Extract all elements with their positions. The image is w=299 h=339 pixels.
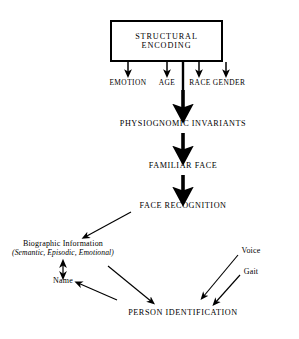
node-voice: Voice <box>241 247 260 256</box>
node-person-identification-label: PERSON IDENTIFICATION <box>128 308 238 317</box>
node-race: RACE <box>189 79 211 87</box>
node-gait-label: Gait <box>244 267 259 276</box>
node-biographic-qualifiers-label: (Semantic, Episodic, Emotional) <box>12 249 114 257</box>
node-age: AGE <box>159 79 176 87</box>
node-name-label: Name <box>53 276 73 285</box>
structural-encoding-box: STRUCTURAL ENCODING <box>110 20 223 62</box>
node-face-recognition-label: FACE RECOGNITION <box>139 201 226 210</box>
node-gender: GENDER <box>213 79 246 87</box>
node-person-identification: PERSON IDENTIFICATION <box>128 308 238 317</box>
node-gender-label: GENDER <box>213 78 246 87</box>
node-age-label: AGE <box>159 78 176 87</box>
node-name: Name <box>53 277 73 286</box>
node-race-label: RACE <box>189 78 211 87</box>
diagram-canvas: STRUCTURAL ENCODING EMOTION AGE RACE GEN… <box>0 0 299 339</box>
node-physiognomic-invariants: PHYSIOGNOMIC INVARIANTS <box>120 119 246 128</box>
node-gait: Gait <box>244 268 259 277</box>
node-familiar-face-label: FAMILIAR FACE <box>149 161 217 170</box>
edge-person-to-name <box>78 283 117 300</box>
node-familiar-face: FAMILIAR FACE <box>149 161 217 170</box>
node-emotion-label: EMOTION <box>109 78 146 87</box>
node-face-recognition: FACE RECOGNITION <box>139 201 226 210</box>
edge-biographic-to-person <box>108 266 152 302</box>
edge-voice-to-person <box>203 255 238 297</box>
edge-recognition-to-biographic <box>85 212 131 237</box>
structural-encoding-label: STRUCTURAL ENCODING <box>112 32 221 50</box>
node-physiognomic-invariants-label: PHYSIOGNOMIC INVARIANTS <box>120 119 246 128</box>
node-voice-label: Voice <box>241 246 260 255</box>
edge-gait-to-person <box>215 275 240 303</box>
node-emotion: EMOTION <box>109 79 146 87</box>
node-biographic-information: Biographic Information (Semantic, Episod… <box>12 240 114 257</box>
